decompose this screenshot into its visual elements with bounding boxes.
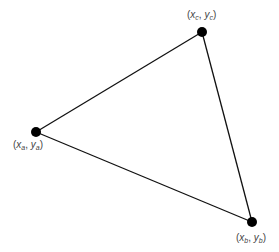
vertex-a-label: (xa, ya) — [13, 139, 43, 151]
paren-close: ) — [213, 9, 216, 20]
vertex-b-label: (xb, yb) — [236, 232, 266, 244]
vertex-c-label: (xc, yc) — [187, 9, 216, 21]
vertex-b — [247, 217, 257, 227]
triangle-diagram — [0, 0, 279, 252]
paren-close: ) — [263, 232, 266, 243]
edge-b-a — [36, 132, 252, 222]
edge-c-b — [202, 32, 252, 222]
vertex-a — [31, 127, 41, 137]
vertex-c — [197, 27, 207, 37]
paren-close: ) — [40, 139, 43, 150]
edge-a-c — [36, 32, 202, 132]
